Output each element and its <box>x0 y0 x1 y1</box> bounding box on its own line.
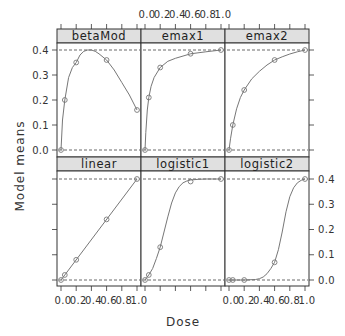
y-tick-label-left: 0.2 <box>32 95 49 106</box>
strip-label: logistic2 <box>240 157 293 171</box>
trellis-chart: betaModemax1emax2linearlogistic1logistic… <box>0 0 345 336</box>
strip-label: betaMod <box>72 29 126 43</box>
plot-area <box>141 43 225 157</box>
y-tick-label-right: 0.1 <box>318 249 335 260</box>
panel-logistic2: logistic2 <box>225 157 309 286</box>
strip-label: emax2 <box>246 29 288 43</box>
panel-logistic1: logistic1 <box>141 157 225 286</box>
y-tick-label-left: 0.1 <box>32 120 49 131</box>
panel-emax2: emax2 <box>225 29 309 157</box>
strip-label: emax1 <box>162 29 204 43</box>
y-tick-label-left: 0.3 <box>32 70 49 81</box>
panel-emax1: emax1 <box>141 29 225 157</box>
y-tick-label-right: 0.3 <box>318 199 335 210</box>
plot-area <box>225 43 309 157</box>
plot-area <box>225 171 309 286</box>
panel-linear: linear <box>57 157 141 286</box>
x-tick-label: 1.0 <box>299 295 316 306</box>
y-tick-label-left: 0.4 <box>32 45 49 56</box>
plot-area <box>141 171 225 286</box>
plot-area <box>57 43 141 157</box>
y-tick-label-left: 0.0 <box>32 145 49 156</box>
y-axis-title: Model means <box>13 120 27 211</box>
x-axis-title: Dose <box>166 315 200 329</box>
strip-label: logistic1 <box>156 157 209 171</box>
y-tick-label-right: 0.4 <box>318 174 335 185</box>
strip-label: linear <box>81 157 117 171</box>
y-tick-label-right: 0.2 <box>318 224 335 235</box>
y-tick-label-right: 0.0 <box>318 275 335 286</box>
x-tick-label: 1.0 <box>215 9 232 20</box>
panel-betaMod: betaMod <box>57 29 141 157</box>
x-tick-label: 1.0 <box>131 295 148 306</box>
panels-group: betaModemax1emax2linearlogistic1logistic… <box>57 29 309 286</box>
